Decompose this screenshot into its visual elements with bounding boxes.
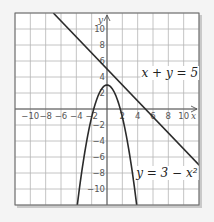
chart: xy −10−8−6−4−2246810108642−2−4−6−8−10 x …: [0, 0, 214, 222]
x-tick-label: 4: [135, 111, 140, 121]
y-tick-label: −8: [92, 168, 105, 178]
line-label: x + y = 5: [142, 66, 199, 80]
y-tick-label: −10: [87, 184, 105, 194]
y-tick-label: −6: [92, 152, 105, 162]
x-tick-label: −8: [39, 111, 52, 121]
x-tick-label: 10: [178, 111, 189, 121]
x-axis-label: x: [191, 111, 196, 121]
y-tick-label: −2: [92, 120, 105, 130]
y-tick-label: 8: [100, 40, 105, 50]
y-tick-label: −4: [92, 136, 105, 146]
y-tick-label: 10: [94, 24, 105, 34]
x-tick-label: −6: [55, 111, 68, 121]
x-tick-label: 8: [166, 111, 171, 121]
y-tick-label: 4: [100, 72, 105, 82]
x-tick-label: −10: [21, 111, 39, 121]
parabola-label: y = 3 − x²: [135, 166, 198, 180]
x-tick-label: −4: [70, 111, 83, 121]
